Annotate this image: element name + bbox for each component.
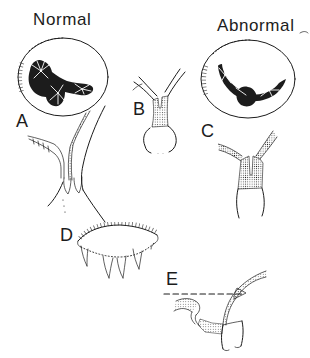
outflow-wall-flares: [48, 182, 105, 222]
crescent-orifice: [218, 64, 286, 106]
thickened-valve-body: [238, 156, 263, 189]
valve-orifice: [29, 60, 94, 106]
normal-column-header: Normal: [33, 11, 91, 28]
stenotic-stippled-band: [152, 96, 168, 127]
leaflet-coaptation-tips: [62, 177, 82, 213]
stray-mark: [299, 30, 309, 36]
figure-c-thickened-valve-drawing: [218, 128, 280, 220]
right-leaflet-arm: [256, 131, 277, 159]
figure-label-d: D: [60, 226, 74, 244]
vessel-tube: [222, 321, 244, 351]
right-leaflet: [223, 271, 266, 325]
right-leaflet: [68, 111, 90, 180]
leaflet-junction: [198, 319, 223, 334]
dome-cap: [78, 223, 158, 257]
left-leaflet-arm: [218, 144, 242, 161]
vessel-branches: [133, 69, 185, 100]
left-vessel: [174, 299, 200, 326]
figure-b-vessel-drawing: [130, 68, 188, 154]
abnormal-valve-top-view-figure: [198, 38, 298, 122]
figure-a-normal-leaflets-drawing: [22, 105, 117, 225]
diagram-canvas: Normal Abnormal A B C D E: [0, 0, 310, 358]
figure-label-c: C: [201, 122, 215, 140]
abnormal-column-header: Abnormal: [217, 17, 295, 34]
vessel-tube: [237, 188, 265, 218]
left-leaflet: [28, 136, 64, 178]
vessel-bulb: [144, 126, 177, 154]
figure-e-leaflet-level-drawing: [162, 268, 268, 358]
figure-d-doming-membrane-drawing: [75, 222, 165, 284]
